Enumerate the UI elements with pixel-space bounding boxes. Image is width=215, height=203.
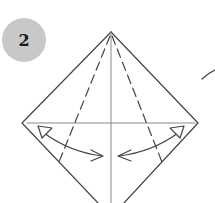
diamond-right-edge xyxy=(111,32,198,203)
partial-arc xyxy=(202,70,215,79)
diamond-left-edge xyxy=(22,32,111,203)
right-valley-fold-line xyxy=(112,36,162,162)
left-valley-fold-line xyxy=(59,36,110,162)
fold-diagram-svg xyxy=(0,0,215,203)
left-arrow-hollow-head-icon xyxy=(38,126,52,138)
left-fold-arrow xyxy=(44,133,102,156)
origami-diagram: 2 xyxy=(0,0,215,203)
right-fold-arrow xyxy=(119,133,178,156)
right-arrow-hollow-head-icon xyxy=(170,126,184,138)
